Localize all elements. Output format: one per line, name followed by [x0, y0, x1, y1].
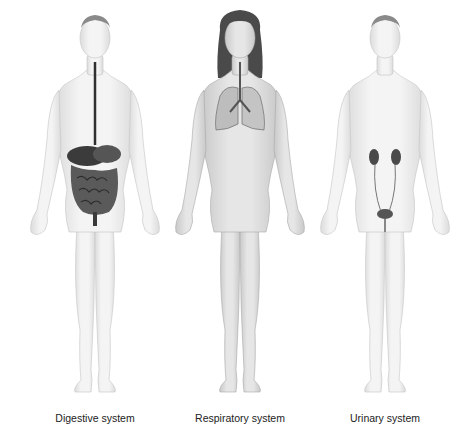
male-body-urinary-illustration: [315, 0, 455, 400]
figure-caption: Respiratory system: [170, 412, 310, 424]
figure-urinary-system: Urinary system: [315, 0, 455, 400]
figure-caption: Urinary system: [315, 412, 455, 424]
figure-caption: Digestive system: [25, 412, 165, 424]
figure-respiratory-system: Respiratory system: [170, 0, 310, 400]
male-body-digestive-illustration: [25, 0, 165, 400]
figure-digestive-system: Digestive system: [25, 0, 165, 400]
female-body-respiratory-illustration: [170, 0, 310, 400]
